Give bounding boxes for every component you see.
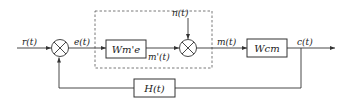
summing-junction-1 (52, 40, 69, 57)
block-diagram: r(t) e(t) Wm'e m'(t) n(t) m(t) Wcm c(t) … (0, 0, 352, 109)
label-c: c(t) (297, 37, 313, 47)
controller-label: Wm'e (112, 44, 141, 55)
summing-junction-2 (180, 40, 197, 57)
plant-label: Wcm (254, 43, 279, 54)
feedback-line-left (59, 58, 134, 89)
label-m-prime: m'(t) (148, 52, 170, 62)
label-r: r(t) (22, 37, 37, 47)
label-e: e(t) (74, 37, 90, 47)
label-n: n(t) (172, 8, 189, 18)
feedback-label: H(t) (143, 83, 165, 94)
label-m: m(t) (217, 37, 237, 47)
